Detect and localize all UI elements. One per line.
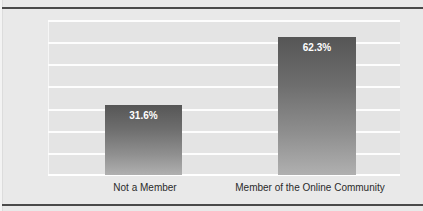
plot-area: 70.0% 60.0% 50.0% 40.0% 30.0% 20.0% 10.0…: [48, 20, 400, 175]
bar-member-of-the-online-community: 62.3%: [278, 37, 356, 175]
bar-chart-figure: 70.0% 60.0% 50.0% 40.0% 30.0% 20.0% 10.0…: [0, 0, 423, 211]
bar-value-member-of-the-online-community: 62.3%: [278, 42, 356, 53]
clipped-title-sliver: [60, 0, 360, 6]
bar-value-not-a-member: 31.6%: [105, 110, 182, 121]
x-tick-label-not-a-member: Not a Member: [55, 182, 235, 194]
figure-bottom-rule: [2, 204, 423, 206]
bar-not-a-member: 31.6%: [105, 105, 182, 175]
figure-top-rule: [2, 7, 423, 9]
gridline-70: [48, 20, 400, 22]
figure-left-edge-rule: [0, 0, 3, 211]
x-tick-label-member-of-the-online-community: Member of the Online Community: [215, 182, 405, 194]
